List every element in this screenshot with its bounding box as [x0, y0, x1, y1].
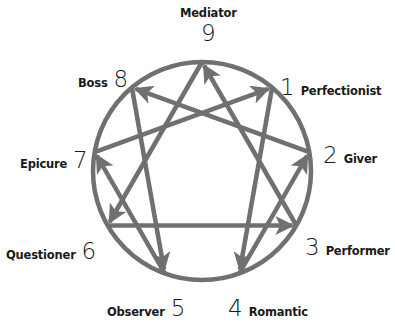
point-label-3: 3 Performer	[305, 234, 390, 260]
point-name-2: Giver	[344, 152, 377, 166]
point-number-2: 2	[323, 142, 338, 168]
point-name-5: Observer	[107, 305, 165, 319]
point-label-4: 4 Romantic	[228, 295, 308, 321]
point-number-4: 4	[228, 295, 243, 321]
point-name-7: Epicure	[20, 157, 67, 171]
point-name-3: Performer	[326, 244, 390, 258]
point-number-3: 3	[305, 234, 320, 260]
point-label-9: Mediator 9	[180, 6, 237, 46]
point-number-1: 1	[280, 74, 295, 100]
point-name-9: Mediator	[180, 6, 237, 20]
point-number-9: 9	[201, 20, 216, 46]
point-name-8: Boss	[78, 76, 108, 90]
point-label-6: Questioner 6	[6, 238, 96, 264]
point-number-6: 6	[82, 238, 97, 264]
point-number-7: 7	[73, 147, 88, 173]
point-name-6: Questioner	[6, 248, 76, 262]
point-label-5: Observer 5	[107, 295, 185, 321]
point-name-1: Perfectionist	[301, 84, 382, 98]
enneagram-circle	[93, 62, 311, 280]
point-label-2: 2 Giver	[323, 142, 377, 168]
point-name-4: Romantic	[249, 305, 308, 319]
point-label-7: Epicure 7	[20, 147, 88, 173]
point-label-1: 1 Perfectionist	[280, 74, 381, 100]
point-number-5: 5	[171, 295, 186, 321]
point-label-8: Boss 8	[78, 66, 128, 92]
point-number-8: 8	[114, 66, 129, 92]
